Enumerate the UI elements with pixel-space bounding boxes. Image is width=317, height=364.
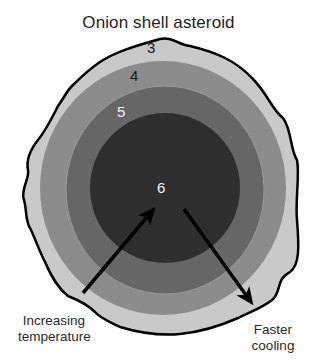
increasing-temperature-label: Increasing temperature (18, 313, 90, 345)
layer-5-label: 5 (117, 104, 125, 120)
faster-cooling-label: Faster cooling (248, 322, 298, 354)
increasing-temperature-line-1: Increasing (18, 313, 90, 329)
layer-4-label: 4 (130, 68, 138, 84)
layer-6-label: 6 (157, 180, 165, 196)
layer-3-label: 3 (147, 40, 155, 56)
faster-cooling-line-2: cooling (248, 338, 298, 354)
faster-cooling-line-1: Faster (248, 322, 298, 338)
increasing-temperature-line-2: temperature (18, 329, 90, 345)
onion-shell-diagram: Onion shell asteroid 3 4 5 6 Increasing … (0, 0, 317, 364)
